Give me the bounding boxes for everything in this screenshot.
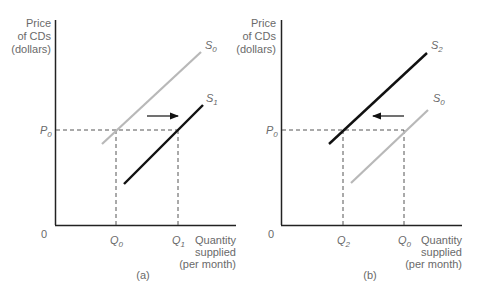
s2-label: S2	[431, 39, 443, 54]
x-axis-label-line3: (per month)	[179, 258, 236, 270]
panel-caption-a: (a)	[136, 269, 149, 281]
s0-label: S0	[433, 92, 445, 107]
origin-label: 0	[268, 228, 274, 240]
x-axis-label-line2: supplied	[195, 246, 236, 258]
y-axis-label-line2: of CDs	[242, 30, 276, 42]
panel-a: Price of CDs (dollars) S0 S1 P0 0 Q0 Q1 …	[11, 17, 236, 281]
supply-curve-s2	[329, 53, 427, 144]
y-axis-label-line1: Price	[251, 17, 276, 29]
origin-label: 0	[41, 228, 47, 240]
y-axis-label-line1: Price	[26, 17, 51, 29]
q1-label: Q1	[172, 234, 185, 249]
q2-label: Q2	[337, 234, 351, 249]
p0-label: P0	[40, 124, 52, 139]
x-axis-label-line1: Quantity	[421, 234, 462, 246]
supply-curve-s0	[351, 110, 428, 183]
s0-label: S0	[205, 39, 217, 54]
supply-curve-s1	[124, 105, 203, 184]
supply-curve-s0	[102, 52, 201, 144]
s1-label: S1	[206, 92, 218, 107]
q0-label: Q0	[110, 234, 124, 249]
supply-shift-figure: Price of CDs (dollars) S0 S1 P0 0 Q0 Q1 …	[0, 0, 484, 294]
y-axis-label-line3: (dollars)	[236, 43, 276, 55]
p0-label: P0	[266, 124, 278, 139]
y-axis-label-line2: of CDs	[17, 30, 51, 42]
q0-label: Q0	[398, 234, 412, 249]
panel-caption-b: (b)	[363, 269, 376, 281]
x-axis-label-line1: Quantity	[195, 234, 236, 246]
x-axis-label-line3: (per month)	[405, 258, 462, 270]
y-axis-label-line3: (dollars)	[11, 43, 51, 55]
x-axis-label-line2: supplied	[421, 246, 462, 258]
panel-b: Price of CDs (dollars) S2 S0 P0 0 Q2 Q0 …	[236, 17, 462, 281]
